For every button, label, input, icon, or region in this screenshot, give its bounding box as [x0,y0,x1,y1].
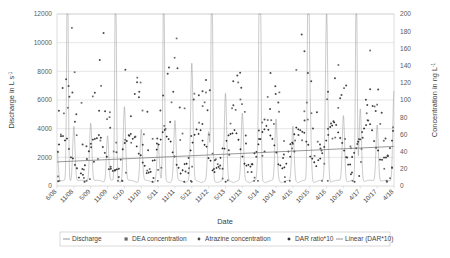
data-point [188,167,190,169]
y2-axis-title: Concentration in ng L-1 [430,62,439,137]
data-point [194,93,196,95]
y-tick-label: 10000 [34,39,53,46]
data-point [204,102,206,104]
data-point [86,180,88,182]
svg-text:5/13: 5/13 [212,187,226,201]
data-point [222,178,224,180]
svg-text:4/16: 4/16 [314,187,328,201]
data-point [386,181,388,183]
data-point [142,144,144,146]
y2-tick-label: 180 [400,28,411,35]
data-point [99,59,101,61]
data-point [228,149,230,151]
svg-text:5/09: 5/09 [78,187,92,201]
data-point [136,77,138,79]
data-point [76,134,78,136]
data-point [381,112,383,114]
data-point [267,96,269,98]
svg-text:11/09: 11/09 [92,187,108,203]
data-point [182,133,184,135]
data-point [230,123,232,125]
data-point [143,133,145,135]
y-axis-title-superscript: -1 [8,71,13,76]
y-tick-label: 4000 [37,125,52,132]
data-point [219,168,221,170]
data-point [75,113,77,115]
data-point [187,172,189,174]
x-tick-label: 10/17 [362,187,379,204]
y-axis-tick-labels: 020004000600080001000012000 [34,10,53,189]
data-point [245,135,247,137]
data-point [344,138,346,140]
data-point [301,139,303,141]
data-point [236,74,238,76]
data-point [356,143,358,145]
data-point [306,102,308,104]
data-point [303,50,305,52]
data-point [350,146,352,148]
data-point [270,119,272,121]
x-tick-label: 5/14 [246,187,260,201]
data-point [304,120,306,122]
data-point [179,139,181,141]
data-point [201,123,203,125]
data-point [124,69,126,71]
data-point [245,143,247,145]
data-point [307,72,309,74]
y2-tick-label: 160 [400,45,411,52]
data-point [68,85,70,87]
svg-text:5/10: 5/10 [111,187,125,201]
svg-text:10/15: 10/15 [294,187,311,204]
svg-text:10/14: 10/14 [260,187,277,204]
data-point [314,155,316,157]
data-point [212,153,214,155]
data-point [81,168,83,170]
data-point [327,91,329,93]
data-point [84,181,86,183]
data-point [339,97,341,99]
x-tick-label: 6/08 [44,187,58,201]
data-point [369,50,371,52]
data-point [240,87,242,89]
y2-tick-label: 60 [400,131,408,138]
data-point [167,73,169,75]
chart-figure: 020004000600080001000012000 020406080100… [0,0,450,258]
data-point [219,165,221,167]
data-point [89,178,91,180]
data-point [277,101,279,103]
x-tick-label: 11/09 [92,187,108,203]
svg-text:11/12: 11/12 [193,187,209,203]
data-point [125,172,127,174]
data-point [227,179,229,181]
data-point [124,139,126,141]
data-point [379,123,381,125]
y2-tick-label: 0 [400,182,404,189]
x-tick-label: 4/16 [314,187,328,201]
data-point [130,142,132,144]
data-point [93,161,95,163]
data-point [103,32,105,34]
data-point [289,180,291,182]
data-point [237,82,239,84]
data-point [337,107,339,109]
data-point [152,181,154,183]
y-tick-label: 2000 [37,154,52,161]
x-tick-label: 4/18 [381,187,395,201]
data-point [362,137,364,139]
data-point [146,170,148,172]
data-point [176,38,178,40]
data-point [152,138,154,140]
data-point [113,151,115,153]
data-point [134,93,136,95]
data-point [62,87,64,89]
data-point [352,180,354,182]
data-point [341,94,343,96]
data-point [323,163,325,165]
x-tick-label: 11/12 [193,187,209,203]
data-point [291,148,293,150]
data-point [257,180,259,182]
data-point [184,108,186,110]
y2-axis-title-superscript: -1 [431,62,436,67]
data-point [110,166,112,168]
y-tick-label: 12000 [34,10,53,17]
